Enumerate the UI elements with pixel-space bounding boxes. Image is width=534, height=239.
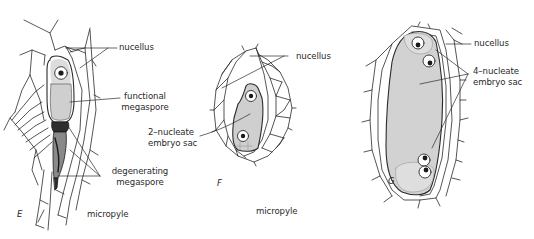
panel-e-degenerating-megaspores [52, 122, 69, 132]
panel-e-label-functional-megaspore-line2: megaspore [112, 102, 178, 113]
panel-e-label-functional-megaspore-line1: functional [112, 91, 178, 102]
panel-e-label-degenerating-megaspore-line2: megaspore [104, 177, 176, 188]
panel-g-label-sac-line2: embryo sac [473, 77, 522, 88]
diagram-drawing [0, 0, 534, 239]
panel-e-label-micropyle: micropyle [87, 209, 128, 220]
panel-g-label-sac-line1: 4–nucleate [473, 66, 519, 77]
panel-e-letter: E [17, 209, 22, 219]
panel-f-label-sac-line1: 2–nucleate [148, 127, 194, 138]
panel-f-label-micropyle: micropyle [256, 206, 297, 217]
panel-e-label-nucellus: nucellus [119, 42, 154, 53]
embryo-sac-development-figure: nucellus functional megaspore degenerati… [0, 0, 534, 239]
panel-f-letter: F [217, 178, 222, 188]
panel-e-label-degenerating-megaspore-line1: degenerating [104, 166, 176, 177]
panel-f-label-nucellus: nucellus [296, 51, 331, 62]
panel-g-label-nucellus: nucellus [474, 38, 509, 49]
panel-f-label-sac-line2: embryo sac [148, 138, 197, 149]
panel-g-letter: G [388, 176, 395, 186]
